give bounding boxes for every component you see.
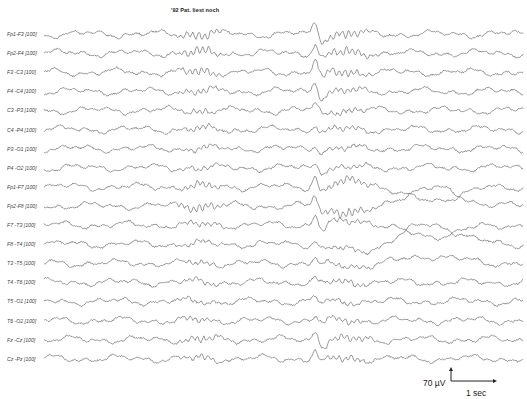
- channel-label: F4 -C4 [100]: [7, 88, 36, 94]
- channel-label: Fp2-F8 [100]: [7, 203, 37, 209]
- channel-label: C4 -P4 [100]: [7, 127, 36, 133]
- channel-label: C3 -P3 [100]: [7, 107, 36, 113]
- eeg-trace: [44, 349, 523, 363]
- channel-label: F7 -T3 [100]: [7, 222, 35, 228]
- eeg-trace: [44, 296, 523, 307]
- eeg-trace: [44, 215, 523, 240]
- eeg-trace: [44, 255, 523, 269]
- eeg-trace: [44, 83, 523, 101]
- channel-label: P4 -O2 [100]: [7, 165, 36, 171]
- channel-label: T4 -T6 [100]: [7, 279, 35, 285]
- channel-label: Fp2-F4 [100]: [7, 50, 37, 56]
- eeg-traces: [0, 0, 527, 399]
- channel-label: F3 -C3 [100]: [7, 69, 36, 75]
- eeg-trace: [44, 176, 523, 202]
- channel-label: Fp1-F7 [100]: [7, 184, 37, 190]
- scale-bar: [449, 367, 497, 383]
- channel-label: Fz -Cz [100]: [7, 337, 35, 343]
- channel-label: T5 -O1 [100]: [7, 298, 36, 304]
- channel-label: F8 -T4 [100]: [7, 241, 35, 247]
- eeg-trace: [44, 23, 523, 44]
- eeg-trace: [44, 333, 523, 349]
- eeg-trace: [44, 186, 523, 219]
- eeg-trace: [44, 315, 523, 325]
- eeg-trace: [44, 103, 523, 116]
- eeg-trace: [44, 276, 523, 287]
- eeg-trace: [44, 162, 523, 175]
- eeg-trace: [44, 44, 523, 59]
- eeg-trace: [44, 144, 523, 155]
- channel-label: T3 -T5 [100]: [7, 260, 35, 266]
- channel-label: Fp1-F3 [100]: [7, 31, 37, 37]
- eeg-trace: [44, 123, 523, 134]
- channel-label: Cz -Pz [100]: [7, 356, 36, 362]
- scale-amplitude-label: 70 µV: [423, 378, 445, 388]
- channel-label: P3 -O1 [100]: [7, 146, 36, 152]
- eeg-trace: [44, 59, 523, 77]
- eeg-trace: [44, 224, 523, 255]
- scale-time-label: 1 sec: [466, 388, 486, 398]
- channel-label: T6 -O2 [100]: [7, 318, 36, 324]
